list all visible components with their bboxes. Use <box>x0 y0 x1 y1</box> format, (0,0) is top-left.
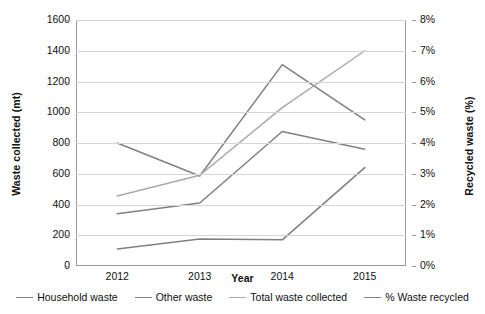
y-axis-right-tick-mark <box>412 82 416 83</box>
y-axis-right-tick-label: 8% <box>420 13 435 25</box>
x-axis-tick-label: 2015 <box>335 270 395 282</box>
gridline <box>76 82 406 83</box>
y-axis-left-tick-label: 1400 <box>47 44 70 56</box>
plot-area <box>76 20 406 266</box>
y-axis-right-tick-mark <box>412 51 416 52</box>
y-axis-right-tick-mark <box>412 143 416 144</box>
y-axis-left-tick-mark <box>66 174 70 175</box>
legend-line-swatch <box>229 297 246 298</box>
y-axis-left-tick-label: 400 <box>52 198 70 210</box>
legend-item[interactable]: Total waste collected <box>229 291 347 303</box>
y-axis-right-tick-mark <box>412 20 416 21</box>
y-axis-left-tick-label: 1000 <box>47 105 70 117</box>
y-axis-left-tick-mark <box>66 112 70 113</box>
y-axis-right-tick-label: 3% <box>420 167 435 179</box>
y-axis-left-tick-label: 1600 <box>47 13 70 25</box>
y-axis-right-ticks: 8%7%6%5%4%3%2%1%0% <box>412 20 452 266</box>
y-axis-left-tick-label: 1200 <box>47 75 70 87</box>
y-axis-left-tick-mark <box>66 143 70 144</box>
y-axis-right-title: Recycled waste (%) <box>463 81 475 211</box>
y-axis-left-tick-label: 600 <box>52 167 70 179</box>
y-axis-right-tick-label: 1% <box>420 228 435 240</box>
legend-item-label: Household waste <box>37 291 118 303</box>
y-axis-left-tick-label: 800 <box>52 136 70 148</box>
x-axis-tick-label: 2013 <box>170 270 230 282</box>
line-chart: Waste collected (mt) Recycled waste (%) … <box>0 0 485 314</box>
legend-item[interactable]: Household waste <box>16 291 118 303</box>
chart-legend: Household wasteOther wasteTotal waste co… <box>0 291 485 303</box>
gridline <box>76 112 406 113</box>
legend-line-swatch <box>364 297 381 298</box>
y-axis-right-tick-label: 0% <box>420 259 435 271</box>
y-axis-left-tick-mark <box>66 205 70 206</box>
legend-item[interactable]: Other waste <box>135 291 213 303</box>
y-axis-right-tick-label: 7% <box>420 44 435 56</box>
y-axis-right-tick-mark <box>412 266 416 267</box>
y-axis-right-tick-mark <box>412 205 416 206</box>
y-axis-right-tick-label: 5% <box>420 105 435 117</box>
y-axis-right-tick-mark <box>412 112 416 113</box>
x-axis-tick-label: 2014 <box>252 270 312 282</box>
x-axis-tick-label: 2012 <box>87 270 147 282</box>
gridline <box>76 205 406 206</box>
legend-line-swatch <box>16 297 33 298</box>
y-axis-left-tick-mark <box>66 20 70 21</box>
legend-item-label: Total waste collected <box>250 291 347 303</box>
y-axis-right-tick-mark <box>412 174 416 175</box>
y-axis-left-tick-mark <box>66 82 70 83</box>
y-axis-left-tick-mark <box>66 235 70 236</box>
gridline <box>76 174 406 175</box>
legend-item-label: % Waste recycled <box>385 291 469 303</box>
gridline <box>76 20 406 21</box>
gridline <box>76 143 406 144</box>
y-axis-left-tick-label: 0 <box>64 259 70 271</box>
y-axis-right-tick-label: 6% <box>420 75 435 87</box>
y-axis-left-tick-label: 200 <box>52 228 70 240</box>
gridline <box>76 235 406 236</box>
x-axis-ticks: 2012201320142015 <box>76 268 406 286</box>
legend-item-label: Other waste <box>156 291 213 303</box>
y-axis-left-ticks: 16001400120010008006004002000 <box>20 20 70 266</box>
legend-line-swatch <box>135 297 152 298</box>
legend-item[interactable]: % Waste recycled <box>364 291 469 303</box>
y-axis-right-tick-mark <box>412 235 416 236</box>
gridline <box>76 51 406 52</box>
y-axis-left-tick-mark <box>66 266 70 267</box>
y-axis-left-tick-mark <box>66 51 70 52</box>
y-axis-right-tick-label: 2% <box>420 198 435 210</box>
y-axis-right-tick-label: 4% <box>420 136 435 148</box>
